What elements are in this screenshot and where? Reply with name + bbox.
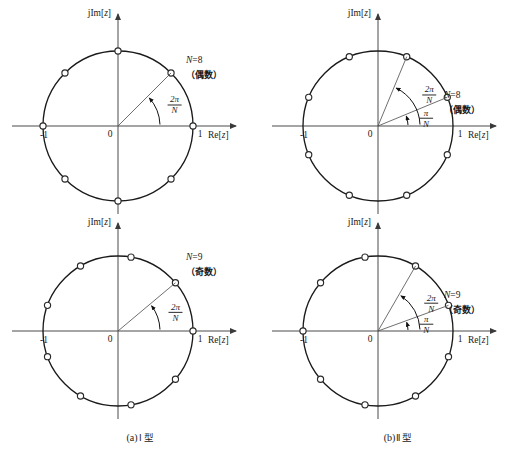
tick-label-minus-one: -1 [40, 335, 48, 345]
zero-marker [445, 354, 451, 360]
parity-label: （奇数） [186, 266, 222, 277]
zero-marker [77, 393, 83, 399]
real-axis-label: Re[z] [208, 335, 229, 345]
zero-marker [190, 123, 196, 129]
zero-marker [44, 302, 50, 308]
zero-marker [62, 70, 68, 76]
caption-b-type: 型 [402, 432, 412, 443]
tick-label-one: 1 [458, 129, 463, 139]
angle-arc [407, 322, 408, 330]
imaginary-axis-var: z [363, 8, 368, 18]
zero-marker [306, 152, 312, 158]
n-value-label: N=9 [443, 290, 461, 300]
angle-denominator: N [171, 313, 179, 323]
zero-marker [115, 48, 121, 54]
n-value-label: N=9 [185, 252, 203, 262]
n-value-label: N=8 [443, 90, 461, 100]
n-symbol: N [185, 252, 193, 262]
figure-unit-circle-zeros: 2πN-110jIm[z]Re[z]N=8（偶数）2πNπN-110jIm[z]… [0, 0, 523, 461]
caption-a-type: 型 [144, 432, 154, 443]
imaginary-axis-label: jIm[z] [87, 8, 111, 18]
zero-marker [412, 393, 418, 399]
tick-label-minus-one: -1 [300, 335, 308, 345]
zero-marker [168, 176, 174, 182]
zero-marker [317, 280, 323, 286]
imaginary-axis-label: jIm[z] [87, 217, 111, 227]
origin-label: 0 [368, 129, 373, 139]
zero-marker [62, 176, 68, 182]
imaginary-axis-var: z [363, 217, 368, 227]
angle-denominator: N [422, 325, 430, 335]
origin-label: 0 [108, 129, 113, 139]
angle-denominator: N [425, 95, 433, 105]
angle-numerator: 2π [171, 302, 181, 312]
panel-top-right: 2πNπN-110jIm[z]Re[z]N=8（偶数） [272, 8, 496, 214]
angle-arc [149, 98, 160, 125]
origin-label: 0 [368, 334, 373, 344]
imaginary-axis-label: jIm[z] [347, 8, 371, 18]
angle-numerator: π [424, 108, 429, 118]
zero-marker [172, 376, 178, 382]
zero-marker [115, 198, 121, 204]
angle-numerator: 2π [427, 293, 437, 303]
angle-denominator: N [427, 304, 435, 314]
panel-top-left: 2πN-110jIm[z]Re[z]N=8（偶数） [12, 8, 236, 214]
panel-bottom-right: 2πNπN-110jIm[z]Re[z]N=9（奇数） [272, 217, 496, 419]
angle-ray [118, 283, 175, 331]
parity-label: （偶数） [444, 104, 480, 115]
imaginary-axis-label: jIm[z] [347, 217, 371, 227]
zero-marker [77, 263, 83, 269]
angle-ray [118, 73, 171, 126]
tick-label-minus-one: -1 [300, 130, 308, 140]
caption-a: (a)Ⅰ型 [126, 432, 153, 444]
figure-canvas: 2πN-110jIm[z]Re[z]N=8（偶数）2πNπN-110jIm[z]… [0, 0, 523, 461]
angle-numerator: 2π [425, 84, 435, 94]
angle-ray [378, 305, 448, 331]
angle-arc [396, 88, 420, 124]
zero-marker [40, 123, 46, 129]
panel-bottom-left: 2πN-110jIm[z]Re[z]N=9（奇数） [12, 217, 236, 419]
angle-numerator: 2π [170, 94, 180, 104]
zero-marker [444, 152, 450, 158]
caption-a-roman: Ⅰ [139, 433, 142, 443]
zero-marker [346, 54, 352, 60]
origin-label: 0 [108, 334, 113, 344]
imaginary-axis-var: z [103, 217, 108, 227]
zero-marker [346, 192, 352, 198]
angle-arc [406, 116, 408, 125]
tick-label-one: 1 [198, 129, 203, 139]
zero-marker [306, 94, 312, 100]
zero-marker [317, 376, 323, 382]
caption-b-roman: Ⅱ [396, 433, 400, 443]
angle-arc [152, 306, 160, 330]
n-symbol: N [185, 55, 193, 65]
n-value-label: N=8 [185, 55, 203, 65]
zero-marker [362, 402, 368, 408]
imaginary-axis-var: z [103, 8, 108, 18]
caption-b: (b)Ⅱ型 [384, 432, 413, 444]
angle-numerator: π [424, 314, 429, 324]
n-symbol: N [443, 90, 451, 100]
zero-marker [44, 354, 50, 360]
tick-label-minus-one: -1 [40, 130, 48, 140]
zero-marker [300, 328, 306, 334]
parity-label: （偶数） [186, 69, 222, 80]
angle-arc [401, 296, 420, 330]
zero-marker [190, 328, 196, 334]
zero-marker [404, 192, 410, 198]
tick-label-one: 1 [458, 334, 463, 344]
real-axis-label: Re[z] [468, 335, 489, 345]
angle-ray [378, 266, 416, 331]
n-symbol: N [443, 290, 451, 300]
real-axis-var: z [481, 130, 486, 140]
zero-marker [362, 254, 368, 260]
parity-label: （奇数） [444, 304, 480, 315]
angle-denominator: N [171, 105, 179, 115]
real-axis-var: z [221, 335, 226, 345]
real-axis-var: z [221, 130, 226, 140]
real-axis-label: Re[z] [468, 130, 489, 140]
angle-denominator: N [422, 119, 430, 129]
tick-label-one: 1 [198, 334, 203, 344]
real-axis-var: z [481, 335, 486, 345]
zero-marker [128, 402, 134, 408]
